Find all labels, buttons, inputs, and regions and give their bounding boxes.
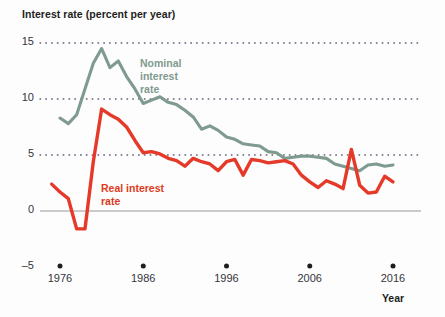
x-axis-title: Year [366, 292, 420, 304]
y-axis-tick-label: 15 [8, 35, 34, 47]
x-axis-tick-label: 1996 [200, 272, 254, 284]
y-axis-tick-label: 5 [8, 147, 34, 159]
interest-rate-chart: Interest rate (percent per year) Nominal… [0, 0, 445, 317]
x-axis-tick-dot [141, 264, 146, 269]
plot-area [0, 0, 445, 317]
x-axis-tick-label: 2006 [283, 272, 337, 284]
y-axis-tick-label: 0 [8, 203, 34, 215]
x-axis-tick-label: 1986 [116, 272, 170, 284]
x-axis-tick-dot [224, 264, 229, 269]
x-axis-tick-dot [391, 264, 396, 269]
x-axis-tick-label: 1976 [33, 272, 87, 284]
nominal-series-annotation: Nominal interest rate [140, 57, 181, 96]
x-axis-tick-label: 2016 [366, 272, 420, 284]
y-axis-tick-label: –5 [8, 259, 34, 271]
nominal-interest-rate-line [60, 49, 393, 171]
y-axis-tick-label: 10 [8, 91, 34, 103]
real-series-annotation: Real interest rate [101, 182, 164, 208]
x-axis-tick-dot [58, 264, 63, 269]
x-axis-tick-dot [307, 264, 312, 269]
